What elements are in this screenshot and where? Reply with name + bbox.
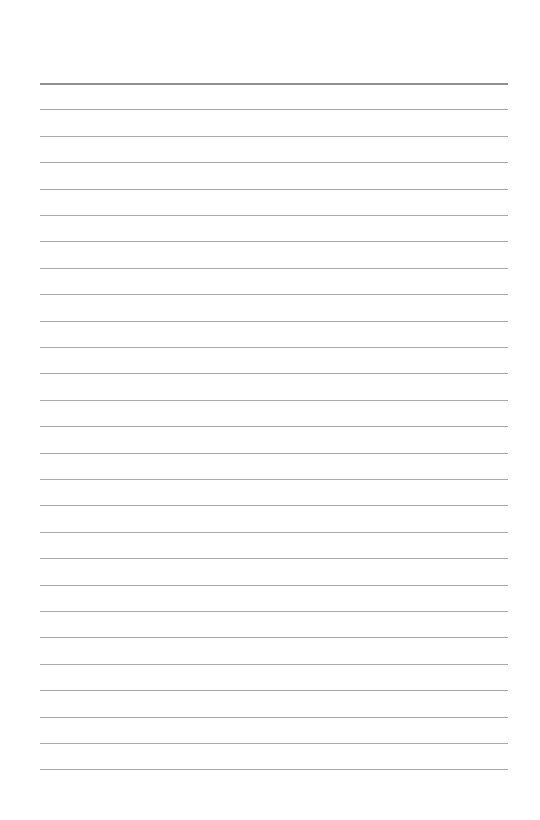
rule-line	[40, 532, 508, 533]
rule-line	[40, 268, 508, 269]
rule-line	[40, 400, 508, 401]
rule-line	[40, 373, 508, 374]
rule-line	[40, 664, 508, 665]
rule-line	[40, 215, 508, 216]
rule-line	[40, 321, 508, 322]
rule-line	[40, 347, 508, 348]
lined-paper-page	[0, 0, 540, 820]
rule-line	[40, 189, 508, 190]
rule-line	[40, 426, 508, 427]
rule-line	[40, 505, 508, 506]
rule-line	[40, 241, 508, 242]
rule-line	[40, 611, 508, 612]
rule-line	[40, 136, 508, 137]
rule-line	[40, 479, 508, 480]
rule-line	[40, 162, 508, 163]
rule-line	[40, 637, 508, 638]
rule-line	[40, 294, 508, 295]
header-rule-line	[40, 83, 508, 85]
rule-line	[40, 743, 508, 744]
rule-line	[40, 690, 508, 691]
rule-line	[40, 585, 508, 586]
rule-line	[40, 558, 508, 559]
rule-line	[40, 453, 508, 454]
rule-line	[40, 109, 508, 110]
rule-line	[40, 769, 508, 770]
rule-line	[40, 717, 508, 718]
